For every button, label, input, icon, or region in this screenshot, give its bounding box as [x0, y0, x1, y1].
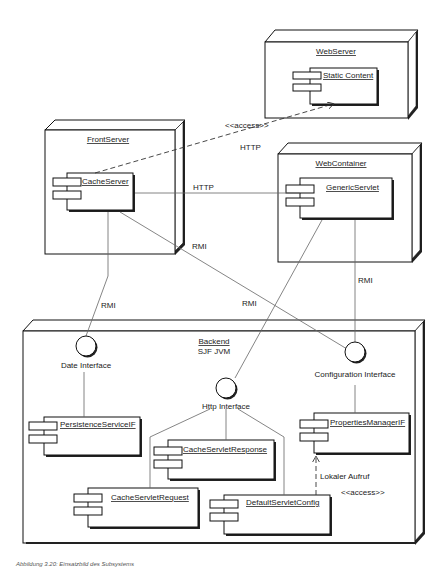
svg-text:PersistenceServiceIF: PersistenceServiceIF: [60, 420, 136, 429]
svg-text:Configuration Interface: Configuration Interface: [315, 370, 396, 379]
node-webcontainer: WebContainer GenericServlet: [278, 143, 422, 263]
figure-caption: Abbildung 3.20: Einsatzbild des Subsyste…: [15, 561, 134, 567]
label-rmi-config-web: RMI: [358, 276, 373, 285]
svg-text:CacheServer: CacheServer: [82, 177, 129, 186]
label-rmi-http: RMI: [242, 299, 257, 308]
label-http-dashed: HTTP: [240, 143, 261, 152]
component-genericservlet: GenericServlet: [286, 178, 394, 220]
node-title: Backend: [198, 337, 229, 346]
label-local-access: <<access>>: [341, 488, 385, 497]
svg-text:PropertiesManagerIF: PropertiesManagerIF: [330, 418, 405, 427]
label-access: <<access>>: [225, 121, 269, 130]
svg-text:Date Interface: Date Interface: [61, 361, 112, 370]
component-defaultservletconfig: DefaultServletConfig: [210, 495, 332, 536]
svg-text:GenericServlet: GenericServlet: [326, 183, 380, 192]
svg-text:CacheServletRequest: CacheServletRequest: [111, 493, 190, 502]
node-webserver: WebServer Static Content: [265, 30, 418, 120]
node-frontserver: FrontServer CacheServer: [45, 120, 185, 255]
deployment-diagram: WebServer Static Content FrontServer Cac…: [0, 0, 448, 570]
component-cacheservletrequest: CacheServletRequest: [74, 488, 200, 529]
component-propertiesmanagerif: PropertiesManagerIF: [300, 413, 411, 455]
svg-text:CacheServletResponse: CacheServletResponse: [183, 445, 268, 454]
svg-text:Static Content: Static Content: [323, 71, 374, 80]
node-title: FrontServer: [87, 135, 130, 144]
component-persistenceserviceif: PersistenceServiceIF: [29, 417, 142, 457]
label-http-solid: HTTP: [193, 183, 214, 192]
node-title: WebServer: [316, 47, 356, 56]
svg-text:DefaultServletConfig: DefaultServletConfig: [246, 498, 319, 507]
label-local-call: Lokaler Aufruf: [320, 472, 370, 481]
svg-text:Http Interface: Http Interface: [202, 402, 251, 411]
label-rmi-config: RMI: [192, 242, 207, 251]
label-rmi-date: RMI: [101, 301, 116, 310]
component-cacheservletresponse: CacheServletResponse: [154, 440, 276, 481]
node-subtitle: SJF JVM: [198, 347, 231, 356]
node-title: WebContainer: [316, 159, 367, 168]
